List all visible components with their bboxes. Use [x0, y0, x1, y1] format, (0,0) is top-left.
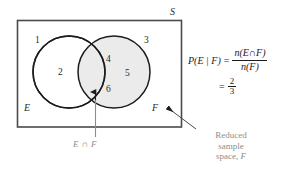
- region-count-6: 6: [106, 85, 111, 95]
- conditional-probability-figure: S E F 1 2 3 4 5 6 E ∩ F Reduced sample s…: [0, 0, 301, 176]
- formula-equals-2: =: [219, 81, 228, 92]
- region-count-5: 5: [125, 69, 130, 79]
- formula-result-numerator: 2: [228, 77, 237, 86]
- conditional-probability-formula: P(E | F) = n(E∩F) n(F) = 2 3: [188, 48, 298, 97]
- region-count-1: 1: [35, 36, 40, 46]
- set-label-f: F: [152, 103, 158, 113]
- formula-line-1: P(E | F) = n(E∩F) n(F): [188, 48, 298, 72]
- reduced-caption-line-1: Reduced: [196, 130, 266, 141]
- formula-result-fraction: 2 3: [228, 77, 237, 97]
- formula-numerator: n(E∩F): [232, 48, 267, 60]
- formula-result-denominator: 3: [228, 87, 237, 96]
- formula-line-2: = 2 3: [188, 77, 298, 97]
- formula-fraction: n(E∩F) n(F): [232, 48, 267, 72]
- reduced-sample-space-caption: Reduced sample space, F: [196, 130, 266, 162]
- reduced-caption-line-2: sample: [196, 141, 266, 152]
- formula-denominator: n(F): [239, 61, 261, 73]
- intersection-caption: E ∩ F: [73, 139, 97, 149]
- formula-lhs: P(E | F): [188, 55, 224, 66]
- reduced-caption-line-3: space, F: [196, 151, 266, 162]
- region-count-4: 4: [106, 55, 111, 65]
- universe-label-s: S: [170, 7, 175, 17]
- region-count-2: 2: [58, 68, 63, 78]
- set-label-e: E: [24, 103, 30, 113]
- region-count-3: 3: [144, 36, 149, 46]
- reduced-caption-word-space: space,: [216, 151, 238, 161]
- reduced-caption-set-f: F: [241, 151, 247, 161]
- formula-equals-1: =: [224, 55, 233, 66]
